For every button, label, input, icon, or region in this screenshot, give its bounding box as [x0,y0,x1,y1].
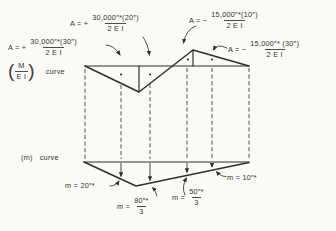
mei-curve-caption: ( M E I ) curve [8,62,65,82]
fraction-denominator: 2 E I [43,47,63,57]
leader-m-20 [110,181,119,186]
m-value-label-50-3: m = 50″* 3 [172,188,205,208]
fraction-denominator: 2 E I [105,23,125,33]
m-value-label-10: m = 10″* [227,174,257,182]
centroid-dots [120,58,213,75]
m-value-text: m = 20″* [65,182,95,190]
fraction-numerator: 50″* [188,188,205,197]
m-value-prefix: m = [117,203,130,211]
leader-area-30000x30 [106,45,120,55]
m-curve-caption: (m) curve [21,154,59,162]
m-value-label-20: m = 20″* [65,182,95,190]
paren-open: ( [8,62,15,79]
leader-m-80-3 [153,188,158,197]
projection-dashed-lines [85,68,249,159]
area-prefix: A = + [8,44,26,52]
fraction-denominator: 3 [192,197,200,207]
centroid-dot-3 [187,58,189,60]
m-diagram [84,162,249,186]
area-fraction: 15,000″* (30″) 2 E I [249,40,300,60]
area-label-30000x30: A = + 30,000″*(30″) 2 E I [8,38,78,58]
diagram-linework [0,0,336,231]
centroid-dot-2 [149,73,151,75]
area-prefix: A = − [228,46,246,54]
area-prefix: A = − [189,17,207,25]
area-label-15000x10: A = − 15,000″*(10″) 2 E I [189,11,259,31]
m-value-fraction: 50″* 3 [188,188,205,208]
m-value-fraction: 80″* 3 [133,197,150,217]
m-value-prefix: m = [172,194,185,202]
fraction-denominator: 3 [137,206,145,216]
leader-area-30000x20 [143,37,150,55]
leader-area-15000x30 [214,46,228,50]
curve-word: curve [40,154,59,162]
fraction-numerator: 15,000″* (30″) [249,40,300,49]
area-prefix: A = + [70,20,88,28]
m-caption-paren: (m) [21,154,33,162]
area-label-30000x20: A = + 30,000″*(20″) 2 E I [70,14,140,34]
m-value-text: m = 10″* [227,174,257,182]
mei-ratio: M E I [15,62,29,82]
area-label-15000x30: A = − 15,000″* (30″) 2 E I [228,40,300,60]
mei-diagram [85,50,249,92]
m-value-arrows [121,163,212,181]
fraction-numerator: 30,000″*(30″) [29,38,78,47]
mei-ratio-numerator: M [17,62,25,71]
curve-word: curve [46,68,65,76]
fraction-denominator: 2 E I [224,20,244,30]
m-outline [84,162,249,186]
paren-close: ) [28,62,35,79]
centroid-dot-4 [211,58,213,60]
fraction-denominator: 2 E I [265,49,285,59]
centroid-dot-1 [120,73,122,75]
fraction-numerator: 80″* [133,197,150,206]
fraction-numerator: 15,000″*(10″) [210,11,259,20]
figure-canvas: A = + 30,000″*(20″) 2 E I A = + 30,000″*… [0,0,336,231]
area-fraction: 15,000″*(10″) 2 E I [210,11,259,31]
area-fraction: 30,000″*(30″) 2 E I [29,38,78,58]
m-value-label-80-3: m = 80″* 3 [117,197,150,217]
leader-m-10 [217,172,227,177]
fraction-numerator: 30,000″*(20″) [91,14,140,23]
mei-ratio-denominator: E I [15,71,29,81]
mei-outline [85,50,249,92]
area-fraction: 30,000″*(20″) 2 E I [91,14,140,34]
